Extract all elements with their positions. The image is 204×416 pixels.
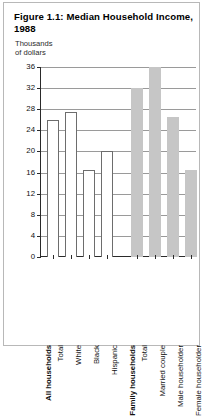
y-tick-mark [37,130,41,131]
x-axis-category-label: White [75,345,83,365]
y-tick-mark [37,194,41,195]
y-axis-caption-line-2: of dollars [15,48,105,57]
y-tick-label: 24 [26,126,35,134]
y-tick-label: 12 [26,190,35,198]
y-tick-label: 28 [26,105,35,113]
x-axis-category-label: Female householder [195,345,203,416]
y-axis-caption: Thousands of dollars [15,39,105,58]
y-tick-label: 4 [31,232,35,240]
x-tick-mark [89,255,90,259]
bar [131,88,143,257]
gridline [41,109,196,110]
y-tick-mark [37,109,41,110]
x-tick-mark [155,255,156,259]
x-axis-category-label: Total [141,345,149,361]
x-tick-mark [191,255,192,259]
y-tick-mark [37,173,41,174]
y-tick-label: 36 [26,63,35,71]
y-tick-label: 8 [31,211,35,219]
x-tick-mark [71,255,72,259]
x-axis-category-label: Male householder [177,345,185,407]
bar [185,170,197,257]
figure-frame: Figure 1.1: Median Household Income, 198… [3,2,200,346]
y-tick-mark [37,88,41,89]
x-axis-category-label: Total [57,345,65,361]
x-axis-group-label: All households [45,345,53,401]
page-title: Figure 1.1: Median Household Income, 198… [14,11,194,34]
x-tick-mark [53,255,54,259]
bar [65,112,77,257]
plot-inner: 04812162024283236 [41,67,196,257]
bar [101,151,113,257]
x-axis-category-label: Married couple [159,345,167,397]
bar [83,170,95,257]
y-tick-label: 16 [26,169,35,177]
y-tick-mark [37,257,41,258]
x-tick-mark [107,255,108,259]
x-axis-category-label: Hispanic [111,345,119,375]
bar [167,117,179,257]
bar [47,120,59,257]
y-axis-caption-line-1: Thousands [15,39,105,48]
y-tick-mark [37,67,41,68]
y-tick-mark [37,236,41,237]
y-tick-label: 32 [26,84,35,92]
x-axis-labels: TotalWhiteBlackHispanicAll householdsTot… [41,259,196,347]
gridline [41,67,196,68]
x-tick-mark [137,255,138,259]
gridline [41,88,196,89]
chart-plot-area: 04812162024283236 [41,67,196,257]
x-axis-category-label: Black [93,345,101,364]
y-tick-mark [37,151,41,152]
y-tick-label: 0 [31,253,35,261]
x-axis-group-label: Family households [129,345,137,416]
x-tick-mark [173,255,174,259]
bar [149,67,161,257]
y-tick-mark [37,215,41,216]
y-tick-label: 20 [26,147,35,155]
